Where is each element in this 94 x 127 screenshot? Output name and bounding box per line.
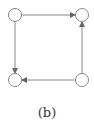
node-top-left (9, 9, 22, 22)
figure-caption: (b) (0, 105, 94, 120)
node-bottom-right (76, 74, 89, 87)
node-bottom-left (9, 74, 22, 87)
node-top-right (76, 9, 89, 22)
